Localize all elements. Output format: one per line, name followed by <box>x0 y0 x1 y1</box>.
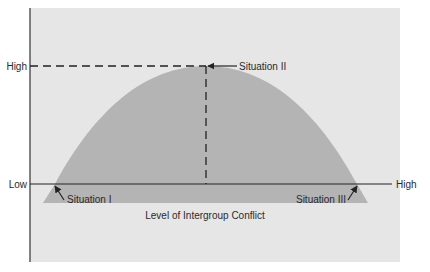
y-high-label: High <box>6 61 27 72</box>
x-high-label: High <box>396 179 417 190</box>
y-low-label: Low <box>9 179 28 190</box>
inverted-u-diagram: High Low High Situation II Situation I S… <box>0 0 430 272</box>
situation-1-label: Situation I <box>67 194 111 205</box>
situation-2-label: Situation II <box>239 61 286 72</box>
situation-3-label: Situation III <box>296 194 346 205</box>
x-axis-title: Level of Intergroup Conflict <box>145 210 265 221</box>
